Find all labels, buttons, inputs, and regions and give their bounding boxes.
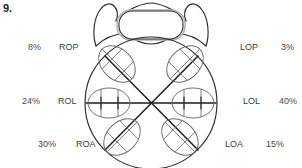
lol-position-label: LOL	[243, 96, 260, 106]
fetal-head-loa	[155, 112, 206, 163]
rop-position-label: ROP	[59, 42, 79, 52]
roa-position-label: ROA	[76, 139, 96, 149]
loa-percent-label: 15%	[266, 139, 284, 149]
rop-percent-label: 8%	[28, 42, 41, 52]
roa-percent-label: 30%	[38, 139, 56, 149]
lop-percent-label: 3%	[281, 42, 294, 52]
loa-position-label: LOA	[225, 139, 243, 149]
rol-percent-label: 24%	[22, 96, 40, 106]
symphysis-pubis-group	[117, 10, 185, 40]
fetal-head-roa	[97, 112, 148, 163]
pelvis-left-wing	[94, 4, 117, 46]
figure-number: 9.	[3, 2, 12, 14]
symphysis-outer-shadow	[117, 10, 185, 40]
pelvis-right-wing	[185, 4, 208, 46]
rol-position-label: ROL	[58, 96, 77, 106]
figure-container: 9.	[0, 0, 302, 168]
lop-position-label: LOP	[240, 42, 258, 52]
lol-percent-label: 40%	[279, 96, 297, 106]
